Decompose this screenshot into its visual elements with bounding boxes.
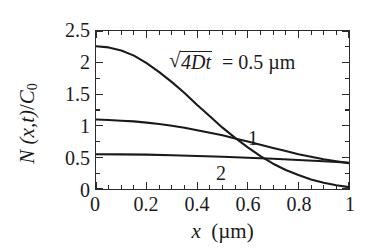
radical-sign-icon: √ [169, 50, 181, 71]
annotation-units: µm [268, 51, 295, 73]
y-tick-label: 1.5 [65, 84, 90, 104]
radical-4dt: √4Dt [169, 50, 212, 72]
x-axis-tick-labels: 0 0.2 0.4 0.6 0.8 1 [95, 194, 350, 220]
radical-body: 4Dt [180, 51, 212, 72]
annotation-value: 0.5 [238, 51, 263, 73]
x-tick-label: 0.6 [236, 194, 261, 214]
y-tick-label: 0.5 [65, 148, 90, 168]
y-tick-label: 1 [80, 116, 90, 136]
annotation-equals: = [222, 51, 233, 73]
x-tick-label: 1 [345, 194, 355, 214]
x-tick-label: 0.4 [185, 194, 210, 214]
y-axis-tick-labels: 0 0.5 1 1.5 2 2.5 [18, 30, 90, 190]
x-tick-label: 0.8 [287, 194, 312, 214]
diffusion-profile-chart: N (x,t)/C0 0 0.5 1 1.5 2 2.5 [0, 0, 369, 252]
y-tick-label: 2 [80, 52, 90, 72]
x-tick-label: 0 [90, 194, 100, 214]
curve-label-2: 2 [216, 163, 226, 183]
chart-annotation: √4Dt = 0.5 µm [169, 50, 295, 72]
curve-label-1: 1 [248, 128, 258, 148]
x-axis-label: x (µm) [95, 219, 350, 244]
y-tick-label: 2.5 [65, 20, 90, 40]
y-tick-label: 0 [80, 180, 90, 200]
x-tick-label: 0.2 [134, 194, 159, 214]
